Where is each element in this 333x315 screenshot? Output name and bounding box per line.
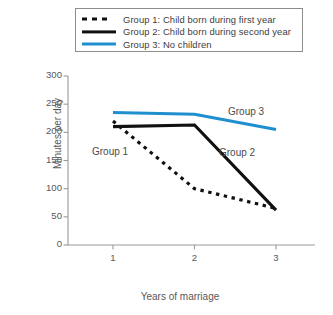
annotation-group-1: Group 1	[92, 146, 128, 157]
x-tick-label: 2	[175, 252, 215, 263]
annotation-group-3: Group 3	[228, 106, 264, 117]
x-axis-title: Years of marriage	[60, 291, 300, 302]
y-tick-label: 0	[18, 238, 62, 249]
data-series-layer	[113, 113, 276, 210]
y-axis-title: Minutes per day	[52, 74, 63, 194]
x-tick-label: 3	[256, 252, 296, 263]
series-line-group-1	[113, 121, 276, 208]
axes	[64, 76, 316, 250]
annotation-group-2: Group 2	[219, 147, 255, 158]
figure: Group 1: Child born during first year Gr…	[0, 0, 333, 315]
series-line-group-2	[113, 125, 276, 210]
y-tick-label: 50	[18, 210, 62, 221]
plot-area: 050100150200250300 123 Group 1Group 2Gro…	[0, 0, 333, 315]
x-tick-label: 1	[93, 252, 133, 263]
